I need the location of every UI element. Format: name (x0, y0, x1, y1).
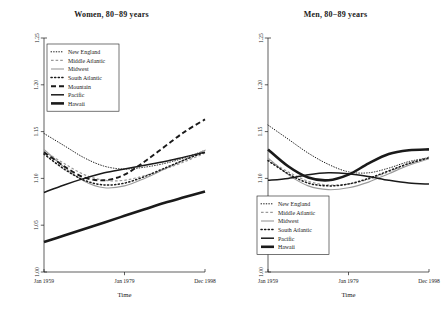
panel-women-80-89: Women, 80−89 years 1.001.051.101.151.201… (0, 0, 223, 318)
legend-label[interactable]: Middle Atlantic (68, 58, 106, 64)
legend-label[interactable]: South Atlantic (278, 227, 312, 233)
x-axis-spine (44, 269, 205, 272)
legend-label[interactable]: Pacific (68, 92, 85, 98)
legend-label[interactable]: Pacific (278, 236, 295, 242)
y-axis-tick-label: 1.10 (258, 173, 264, 183)
panel-men-80-89: Men, 80−89 years 1.001.051.101.151.201.2… (224, 0, 447, 318)
x-axis-tick-label: Jan 1979 (114, 278, 134, 284)
plot-women: 1.001.051.101.151.201.25Jan 1959Jan 1979… (0, 0, 223, 318)
legend-label[interactable]: South Atlantic (68, 75, 102, 81)
y-axis-tick-label: 1.00 (34, 267, 40, 277)
plot-men: 1.001.051.101.151.201.25Jan 1959Jan 1979… (224, 0, 447, 318)
legend-label[interactable]: Midwest (68, 66, 89, 72)
x-axis-tick-label: Dec 1998 (194, 278, 216, 284)
y-axis-tick-label: 1.15 (258, 127, 264, 137)
series-line (44, 192, 205, 243)
x-axis-spine (268, 269, 429, 272)
y-axis-tick-label: 1.10 (34, 173, 40, 183)
series-line (268, 125, 429, 173)
legend-label[interactable]: Hawaii (68, 101, 85, 107)
y-axis-tick-label: 1.00 (258, 267, 264, 277)
legend-label[interactable]: Hawaii (278, 244, 295, 250)
series-line (44, 151, 205, 181)
legend-label[interactable]: New England (68, 49, 100, 55)
x-axis-tick-label: Dec 1998 (418, 278, 440, 284)
x-axis-tick-label: Jan 1959 (34, 278, 54, 284)
y-axis-tick-label: 1.25 (258, 33, 264, 43)
y-axis-tick-label: 1.15 (34, 127, 40, 137)
y-axis-tick-label: 1.05 (34, 220, 40, 230)
series-line (44, 133, 205, 169)
x-axis-label: Time (117, 291, 131, 298)
legend-label[interactable]: Midwest (278, 218, 299, 224)
legend-label[interactable]: Mountain (68, 84, 91, 90)
x-axis-tick-label: Jan 1959 (258, 278, 278, 284)
legend-label[interactable]: New England (278, 201, 310, 207)
figure-panels: Women, 80−89 years 1.001.051.101.151.201… (0, 0, 447, 318)
y-axis-tick-label: 1.25 (34, 33, 40, 43)
y-axis-tick-label: 1.20 (258, 80, 264, 90)
x-axis-tick-label: Jan 1979 (338, 278, 358, 284)
series-line (268, 157, 429, 185)
x-axis-label: Time (341, 291, 355, 298)
legend-label[interactable]: Middle Atlantic (278, 210, 316, 216)
y-axis-tick-label: 1.20 (34, 80, 40, 90)
